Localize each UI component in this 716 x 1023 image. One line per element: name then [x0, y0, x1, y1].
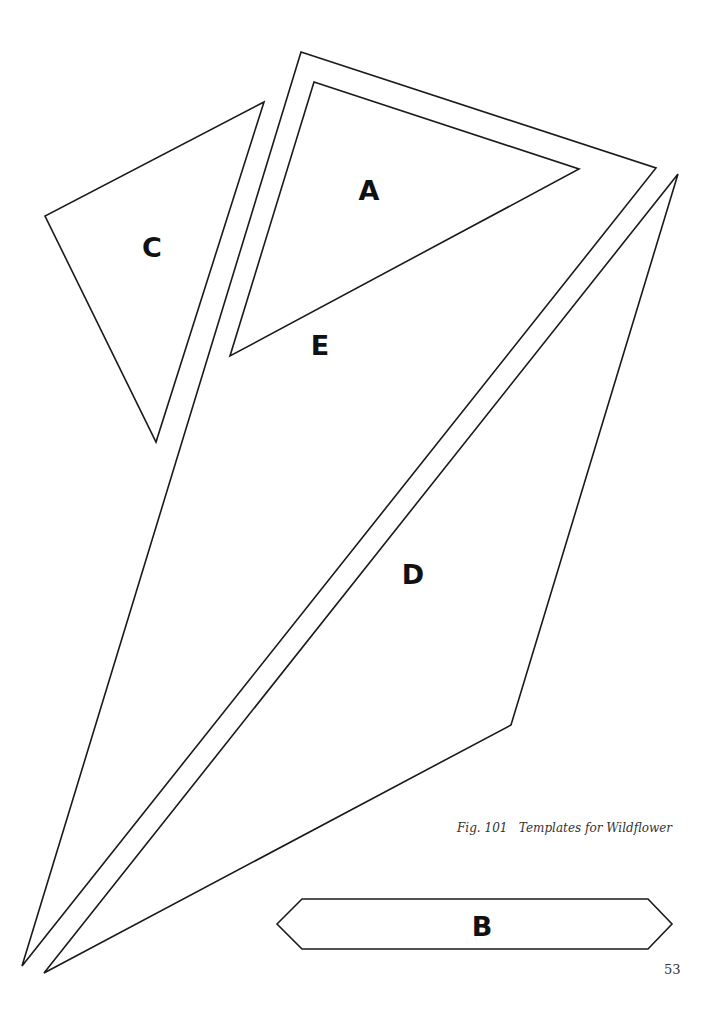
template-c-label: C [142, 234, 162, 261]
template-d-label: D [402, 561, 424, 588]
template-a-label: A [359, 177, 380, 204]
template-e-label: E [311, 332, 329, 359]
template-c-outline [45, 102, 264, 442]
template-diagram [0, 0, 716, 1023]
template-a-outline [230, 82, 579, 356]
template-d-outline [44, 174, 678, 973]
figure-caption: Fig. 101 Templates for Wildflower [457, 821, 672, 835]
template-b-label: B [472, 913, 493, 940]
page-number: 53 [664, 962, 681, 977]
